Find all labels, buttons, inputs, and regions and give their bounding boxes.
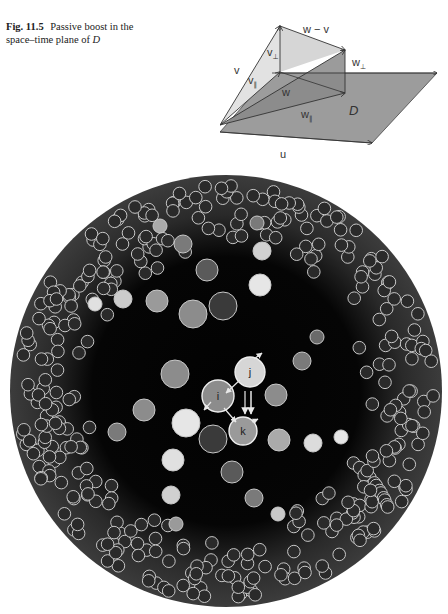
particle-label-j: j <box>248 366 251 378</box>
small-particle <box>274 212 287 225</box>
small-particle <box>408 324 421 337</box>
large-particle <box>162 486 180 504</box>
small-particle <box>97 266 110 279</box>
small-particle <box>49 417 62 430</box>
small-particle <box>122 227 135 240</box>
small-particle <box>187 587 200 600</box>
small-particle <box>353 341 366 354</box>
small-particle <box>385 330 398 343</box>
small-particle <box>192 212 205 225</box>
small-particle <box>412 308 425 321</box>
small-particle <box>63 393 76 406</box>
small-particle <box>135 518 148 531</box>
small-particle <box>417 427 430 440</box>
small-particle <box>67 491 80 504</box>
small-particle <box>68 318 81 331</box>
small-particle <box>190 191 203 204</box>
small-particle <box>149 532 162 545</box>
small-particle <box>301 222 314 235</box>
small-particle <box>18 424 31 437</box>
vector-diagram: v v∥ v⊥ w w∥ w⊥ w − v u D <box>220 0 448 165</box>
large-particle <box>265 384 287 406</box>
small-particle <box>247 572 260 585</box>
label-v: v <box>234 64 240 76</box>
small-particle <box>360 366 373 379</box>
small-particle <box>17 349 30 362</box>
small-particle <box>400 479 413 492</box>
small-particle <box>355 271 368 284</box>
small-particle <box>33 312 46 325</box>
label-w-minus-v: w − v <box>302 23 329 35</box>
small-particle <box>177 542 190 555</box>
small-particle <box>288 545 301 558</box>
small-particle <box>376 250 389 263</box>
small-particle <box>51 333 64 346</box>
small-particle <box>20 327 33 340</box>
small-particle <box>418 406 431 419</box>
small-particle <box>39 397 52 410</box>
small-particle <box>97 282 110 295</box>
small-particle <box>206 537 219 550</box>
small-particle <box>132 549 145 562</box>
small-particle <box>65 300 78 313</box>
small-particle <box>199 180 212 193</box>
small-particle <box>52 345 65 358</box>
small-particle <box>73 347 86 360</box>
small-particle <box>350 224 363 237</box>
small-particle <box>108 215 121 228</box>
small-particle <box>406 419 419 432</box>
small-particle <box>83 264 96 277</box>
small-particle <box>259 560 272 573</box>
small-particle <box>173 187 186 200</box>
small-particle <box>335 239 348 252</box>
small-particle <box>58 508 71 521</box>
small-particle <box>384 404 397 417</box>
small-particle <box>290 507 303 520</box>
small-particle <box>388 475 401 488</box>
large-particle <box>146 290 168 312</box>
small-particle <box>305 253 318 266</box>
small-particle <box>151 262 164 275</box>
small-particle <box>167 205 180 218</box>
large-particle <box>293 352 311 370</box>
large-particle <box>114 290 132 308</box>
small-particle <box>403 458 416 471</box>
small-particle <box>215 182 228 195</box>
small-particle <box>331 211 344 224</box>
small-particle <box>65 441 78 454</box>
small-particle <box>235 230 248 243</box>
small-particle <box>364 484 377 497</box>
large-particle <box>253 242 271 260</box>
large-particle <box>88 297 102 311</box>
small-particle <box>82 488 95 501</box>
small-particle <box>269 231 282 244</box>
small-particle <box>83 421 96 434</box>
small-particle <box>308 266 321 279</box>
small-particle <box>140 230 153 243</box>
small-particle <box>323 487 336 500</box>
large-particle <box>162 449 184 471</box>
small-particle <box>235 208 248 221</box>
small-particle <box>299 566 312 579</box>
small-particle <box>249 589 262 602</box>
small-particle <box>253 543 266 556</box>
small-particle <box>302 529 315 542</box>
large-particle <box>304 434 322 452</box>
small-particle <box>241 548 254 561</box>
small-particle <box>81 335 94 348</box>
small-particle <box>373 313 386 326</box>
label-plane-d: D <box>349 103 358 118</box>
figure-label: Fig. 11.5 <box>6 21 44 32</box>
small-particle <box>27 447 40 460</box>
small-particle <box>222 570 235 583</box>
small-particle <box>71 518 84 531</box>
small-particle <box>105 479 118 492</box>
small-particle <box>427 390 440 403</box>
small-particle <box>316 560 329 573</box>
small-particle <box>383 359 396 372</box>
small-particle <box>142 575 155 588</box>
large-particle <box>334 430 348 444</box>
large-particle <box>153 219 167 233</box>
small-particle <box>401 295 414 308</box>
small-particle <box>99 251 112 264</box>
